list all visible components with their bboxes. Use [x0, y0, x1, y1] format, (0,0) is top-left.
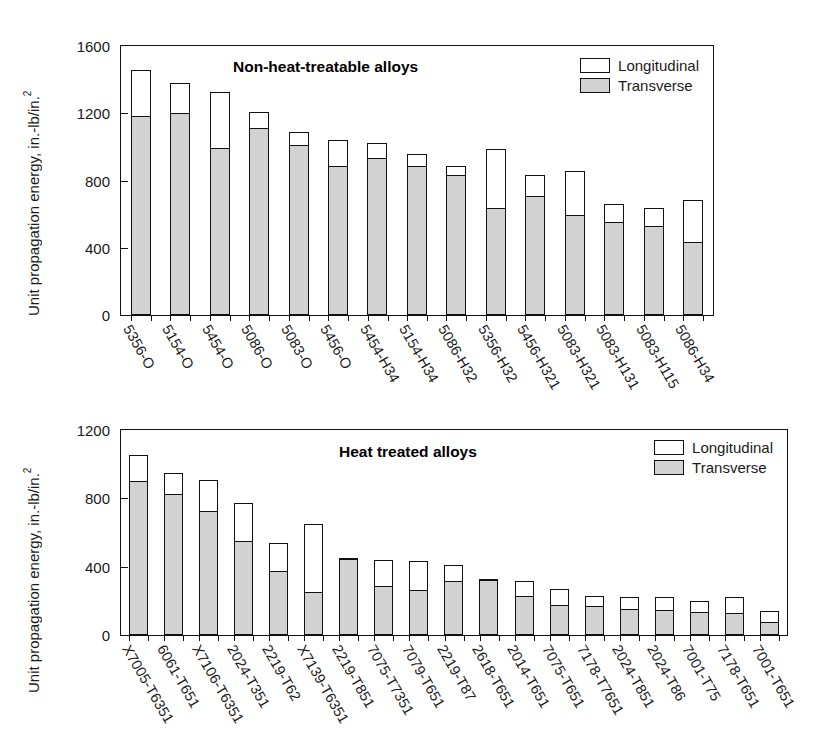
y-tick-mark: [121, 567, 128, 568]
bar-5083-H321[interactable]: [565, 171, 585, 315]
bar-5356-O[interactable]: [131, 70, 151, 315]
bar-slot: [717, 430, 752, 635]
bar-slot: [612, 430, 647, 635]
bar-segment-transverse: [171, 113, 189, 314]
bar-slot: [318, 46, 357, 315]
bar-2024-T351[interactable]: [234, 503, 253, 635]
bar-5454-H34[interactable]: [367, 143, 387, 315]
bar-7075-T651[interactable]: [550, 589, 569, 635]
bar-segment-transverse: [526, 196, 544, 314]
bar-segment-transverse: [270, 571, 287, 634]
y-axis-title-chart2: Unit propagation energy, in.-lb/in.2: [22, 411, 42, 693]
bar-2024-T851[interactable]: [620, 597, 639, 635]
y-axis-title-chart1: Unit propagation energy, in.-lb/in.2: [22, 34, 42, 316]
bar-slot: [200, 46, 239, 315]
y-axis-title-exponent-chart2: 2: [22, 468, 33, 474]
bar-7001-T651[interactable]: [760, 611, 779, 635]
bar-7178-T7651[interactable]: [585, 596, 604, 635]
bar-2219-T851[interactable]: [339, 558, 358, 635]
bar-5086-H34[interactable]: [683, 200, 703, 315]
x-axis-label-5356-H32: 5356-H32: [475, 322, 521, 385]
bar-5456-O[interactable]: [328, 140, 348, 315]
bar-slot: [279, 46, 318, 315]
bar-slot: [542, 430, 577, 635]
bar-group-chart2: [121, 430, 787, 635]
bar-segment-transverse: [684, 242, 702, 314]
x-axis-label-5154-H34: 5154-H34: [396, 322, 442, 385]
bar-slot: [358, 46, 397, 315]
y-tick-mark: [121, 113, 128, 114]
y-tick-label: 800: [85, 490, 110, 507]
bar-segment-transverse: [586, 606, 603, 634]
bar-slot: [331, 430, 366, 635]
bar-segment-transverse: [605, 222, 623, 314]
y-tick-label: 400: [85, 239, 110, 256]
bar-X7005-T6351[interactable]: [129, 455, 148, 635]
bar-5086-H32[interactable]: [446, 166, 466, 315]
bar-segment-transverse: [211, 148, 229, 314]
bar-slot: [673, 46, 712, 315]
bar-segment-transverse: [656, 610, 673, 634]
bar-2219-T62[interactable]: [269, 543, 288, 635]
chart-non-heat-treatable: Unit propagation energy, in.-lb/in.2 Non…: [0, 0, 829, 400]
bar-slot: [634, 46, 673, 315]
x-axis-label-5083-O: 5083-O: [278, 322, 316, 372]
bar-7075-T7351[interactable]: [374, 560, 393, 635]
bar-segment-transverse: [250, 128, 268, 314]
bar-6061-T651[interactable]: [164, 473, 183, 635]
y-axis-title-text-chart1: Unit propagation energy, in.-lb/in.: [25, 96, 42, 316]
bar-7001-T75[interactable]: [690, 601, 709, 635]
y-axis-title-exponent-chart1: 2: [22, 91, 33, 97]
bar-2014-T651[interactable]: [515, 581, 534, 635]
y-tick-label: 800: [85, 172, 110, 189]
bar-7079-T651[interactable]: [409, 561, 428, 635]
bar-slot: [594, 46, 633, 315]
bar-5083-H131[interactable]: [604, 204, 624, 315]
bar-segment-transverse: [516, 596, 533, 634]
bar-segment-transverse: [726, 613, 743, 634]
bar-5454-O[interactable]: [210, 92, 230, 315]
bar-5083-O[interactable]: [289, 132, 309, 315]
bar-segment-transverse: [447, 175, 465, 314]
bar-2219-T87[interactable]: [444, 565, 463, 635]
bar-slot: [516, 46, 555, 315]
bar-segment-transverse: [340, 559, 357, 634]
y-tick-label: 1600: [77, 38, 110, 55]
x-axis-label-5454-O: 5454-O: [199, 322, 237, 372]
x-axis-label-5086-H34: 5086-H34: [672, 322, 718, 385]
x-axis-label-5086-O: 5086-O: [238, 322, 276, 372]
y-tick-mark: [121, 181, 128, 182]
bar-5154-O[interactable]: [170, 83, 190, 315]
bar-5356-H32[interactable]: [486, 149, 506, 315]
bar-segment-transverse: [235, 541, 252, 634]
x-axis-label-5456-O: 5456-O: [317, 322, 355, 372]
bar-X7106-T6351[interactable]: [199, 480, 218, 635]
bar-segment-transverse: [408, 166, 426, 314]
plot-area-chart1: Non-heat-treatable alloys Longitudinal T…: [120, 45, 714, 316]
bar-2618-T651[interactable]: [479, 579, 498, 635]
bar-slot: [471, 430, 506, 635]
bar-X7139-T6351[interactable]: [304, 524, 323, 635]
bar-segment-transverse: [290, 145, 308, 314]
y-tick-label: 1200: [77, 422, 110, 439]
figure-page: Unit propagation energy, in.-lb/in.2 Non…: [0, 0, 829, 755]
bar-2024-T86[interactable]: [655, 597, 674, 635]
bar-5083-H115[interactable]: [644, 208, 664, 315]
bar-slot: [160, 46, 199, 315]
bar-slot: [156, 430, 191, 635]
bar-slot: [226, 430, 261, 635]
y-tick-label: 400: [85, 558, 110, 575]
bar-segment-transverse: [305, 592, 322, 634]
bar-slot: [239, 46, 278, 315]
bar-slot: [437, 46, 476, 315]
bar-5154-H34[interactable]: [407, 154, 427, 315]
bar-slot: [397, 46, 436, 315]
x-axis-label-5356-O: 5356-O: [120, 322, 158, 372]
bar-slot: [296, 430, 331, 635]
bar-slot: [401, 430, 436, 635]
x-axis-label-5154-O: 5154-O: [159, 322, 197, 372]
bar-slot: [577, 430, 612, 635]
bar-5456-H321[interactable]: [525, 175, 545, 315]
bar-5086-O[interactable]: [249, 112, 269, 315]
bar-7178-T651[interactable]: [725, 597, 744, 635]
